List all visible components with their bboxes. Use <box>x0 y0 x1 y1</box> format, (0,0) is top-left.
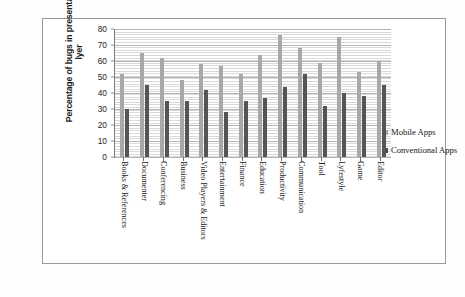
x-axis-label-cell: Editor <box>370 159 390 279</box>
bar-mobile-apps <box>278 35 282 157</box>
x-axis-category-label: Education <box>257 161 266 194</box>
y-axis-tick-label: 20 <box>98 120 107 130</box>
chart-legend: Mobile AppsConventional Apps <box>383 127 465 163</box>
x-axis-category-label: Productivity <box>277 161 286 201</box>
bar-group <box>174 29 194 157</box>
x-axis-label-cell: Documenter <box>134 159 154 279</box>
bar-conventional-apps <box>283 87 287 157</box>
bar-conventional-apps <box>145 85 149 157</box>
bar-conventional-apps <box>323 106 327 157</box>
bar-conventional-apps <box>342 93 346 157</box>
x-axis-label-cell: Conferencing <box>153 159 173 279</box>
legend-item-label: Conventional Apps <box>391 145 457 155</box>
y-axis-tick-label: 0 <box>102 152 107 162</box>
bar-conventional-apps <box>185 101 189 157</box>
bar-group <box>194 29 214 157</box>
bar-mobile-apps <box>180 80 184 157</box>
y-axis-title: Percentage of bugs in presentation lyer <box>59 0 89 127</box>
y-axis-tick-label: 50 <box>98 72 107 82</box>
bar-conventional-apps <box>244 101 248 157</box>
y-axis-tick-label: 30 <box>98 104 107 114</box>
x-axis-category-labels: Books & ReferencesDocumenterConferencing… <box>114 159 390 279</box>
x-axis-label-cell: Entertainment <box>213 159 233 279</box>
bar-mobile-apps <box>318 63 322 157</box>
x-axis-label-cell: Business <box>173 159 193 279</box>
bar-group <box>312 29 332 157</box>
bar-conventional-apps <box>362 96 366 157</box>
plot-area <box>114 29 391 158</box>
bar-mobile-apps <box>140 53 144 157</box>
x-axis-label-cell: Communication <box>291 159 311 279</box>
x-axis-category-label: Documenter <box>139 161 148 201</box>
bar-mobile-apps <box>337 37 341 157</box>
x-axis-category-label: Conferencing <box>159 161 168 205</box>
chart-frame: Percentage of bugs in presentation lyer … <box>42 18 446 264</box>
x-axis-label-cell: Finance <box>232 159 252 279</box>
x-axis-category-label: Business <box>179 161 188 190</box>
legend-item[interactable]: Conventional Apps <box>383 145 465 155</box>
bar-group <box>332 29 352 157</box>
y-axis-title-line-2: lyer <box>74 45 84 60</box>
bar-conventional-apps <box>263 98 267 157</box>
bar-mobile-apps <box>298 48 302 157</box>
bar-mobile-apps <box>377 61 381 157</box>
y-axis-tick-label: 80 <box>98 24 107 34</box>
x-axis-category-label: Communication <box>297 161 306 213</box>
bar-group <box>233 29 253 157</box>
bar-conventional-apps <box>125 109 129 157</box>
bar-group <box>135 29 155 157</box>
bar-mobile-apps <box>219 66 223 157</box>
bar-group <box>115 29 135 157</box>
y-axis-tick-label: 70 <box>98 40 107 50</box>
bar-mobile-apps <box>120 74 124 157</box>
x-axis-label-cell: Game <box>351 159 371 279</box>
bar-group <box>154 29 174 157</box>
bar-conventional-apps <box>224 112 228 157</box>
bar-group <box>292 29 312 157</box>
x-axis-category-label: Game <box>356 161 365 180</box>
bar-mobile-apps <box>357 72 361 157</box>
plot-wrapper: 80706050403020100 <box>90 29 390 157</box>
x-axis-label-cell: Tool <box>311 159 331 279</box>
x-axis-category-label: Entertainment <box>218 161 227 207</box>
x-axis-category-label: Video Players & Editors <box>198 161 207 240</box>
bar-mobile-apps <box>258 55 262 157</box>
x-axis-category-label: Lyfestyle <box>336 161 345 191</box>
bar-groups <box>115 29 391 157</box>
x-axis-label-cell: Education <box>252 159 272 279</box>
bar-mobile-apps <box>239 74 243 157</box>
x-axis-category-label: Finance <box>238 161 247 187</box>
bar-conventional-apps <box>382 85 386 157</box>
bar-group <box>253 29 273 157</box>
y-axis-tick-label: 60 <box>98 56 107 66</box>
legend-item-label: Mobile Apps <box>391 127 436 137</box>
x-axis-category-label: Books & References <box>119 161 128 228</box>
x-axis-label-cell: Productivity <box>272 159 292 279</box>
bar-group <box>352 29 372 157</box>
y-axis-tick-label: 10 <box>98 136 107 146</box>
bar-conventional-apps <box>303 74 307 157</box>
y-axis-tick-labels: 80706050403020100 <box>90 29 110 157</box>
bar-mobile-apps <box>160 58 164 157</box>
bar-mobile-apps <box>199 64 203 157</box>
x-axis-category-label: Editor <box>376 161 385 181</box>
bar-conventional-apps <box>204 90 208 157</box>
y-axis-title-line-1: Percentage of bugs in presentation <box>64 0 74 122</box>
legend-item[interactable]: Mobile Apps <box>383 127 465 137</box>
bar-group <box>214 29 234 157</box>
x-axis-category-label: Tool <box>317 161 326 176</box>
x-axis-label-cell: Lyfestyle <box>331 159 351 279</box>
x-axis-label-cell: Video Players & Editors <box>193 159 213 279</box>
x-axis-label-cell: Books & References <box>114 159 134 279</box>
bar-group <box>273 29 293 157</box>
y-axis-tick-label: 40 <box>98 88 107 98</box>
bar-conventional-apps <box>165 101 169 157</box>
